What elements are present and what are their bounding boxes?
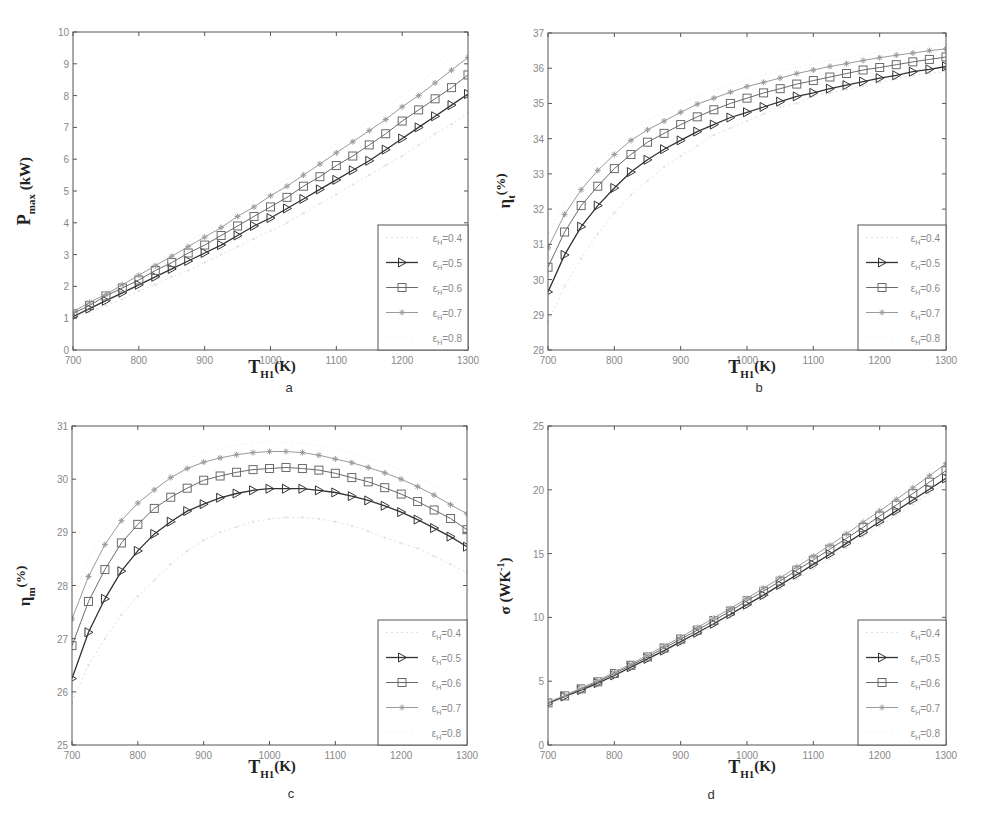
y-tick-label: 0: [538, 740, 544, 751]
x-tick-label: 900: [672, 750, 689, 761]
dot-marker: [812, 568, 814, 570]
y-tick-label: 29: [57, 527, 69, 538]
star-marker: [893, 52, 899, 58]
y-axis-label: σ (WK-1): [495, 558, 514, 615]
panel-label: c: [288, 786, 295, 801]
star-marker: [744, 84, 750, 90]
star-marker: [678, 109, 684, 115]
star-marker: [910, 485, 916, 491]
dot-marker: [597, 233, 599, 235]
star-marker: [431, 492, 437, 498]
star-marker: [844, 61, 850, 67]
star-marker: [416, 93, 422, 99]
chart-panel-c: 700800900100011001200130025262728293031ε…: [13, 421, 479, 801]
star-marker: [761, 585, 767, 591]
star-marker: [136, 272, 142, 278]
series-line: [72, 442, 467, 602]
y-tick-label: 5: [63, 186, 69, 197]
x-tick-label: 1200: [869, 750, 892, 761]
dot-marker: [912, 503, 914, 505]
dot-marker: [829, 558, 831, 560]
dot-marker: [235, 526, 237, 528]
x-tick-label: 1100: [803, 355, 825, 366]
dot-marker: [450, 123, 452, 125]
x-tick-label: 900: [196, 355, 213, 366]
dot-marker: [416, 547, 418, 549]
dot-marker: [796, 102, 798, 104]
y-tick-label: 26: [57, 687, 69, 698]
star-marker: [794, 71, 800, 77]
series-line: [548, 49, 946, 248]
star-marker: [448, 502, 454, 508]
dot-marker: [269, 230, 271, 232]
y-tick-label: 2: [63, 281, 69, 292]
y-tick-label: 29: [533, 310, 545, 321]
y-tick-label: 8: [63, 91, 69, 102]
y-tick-label: 5: [538, 676, 544, 687]
dot-marker: [663, 166, 665, 168]
star-marker: [168, 475, 174, 481]
dot-marker: [367, 530, 369, 532]
y-tick-label: 20: [533, 485, 545, 496]
star-marker: [860, 57, 866, 63]
star-marker: [202, 234, 208, 240]
x-tick-label: 1200: [390, 750, 413, 761]
star-marker: [283, 449, 289, 455]
star-marker: [250, 450, 256, 456]
dot-marker: [878, 525, 880, 527]
x-tick-label: 1100: [326, 355, 348, 366]
panel-label: a: [285, 380, 293, 395]
star-marker: [694, 625, 700, 631]
y-tick-label: 27: [57, 634, 69, 645]
dot-marker: [928, 492, 930, 494]
y-axis-label: ηm(%): [13, 566, 37, 607]
star-marker: [399, 310, 405, 316]
y-tick-label: 25: [533, 421, 545, 432]
star-marker: [217, 455, 223, 461]
chart-panel-a: 7008009001000110012001300012345678910εH=…: [14, 27, 480, 395]
dot-marker: [104, 637, 106, 639]
star-marker: [300, 172, 306, 178]
dot-marker: [401, 155, 403, 157]
x-tick-label: 1100: [803, 750, 825, 761]
dot-marker: [713, 134, 715, 136]
dot-marker: [384, 536, 386, 538]
star-marker: [152, 263, 158, 269]
star-marker: [184, 466, 190, 472]
star-marker: [794, 564, 800, 570]
x-tick-label: 700: [64, 750, 81, 761]
dot-marker: [845, 547, 847, 549]
star-marker: [562, 211, 568, 217]
star-marker: [284, 183, 290, 189]
dot-marker: [105, 304, 107, 306]
dot-marker: [613, 211, 615, 213]
x-tick-label: 900: [672, 355, 689, 366]
dot-marker: [679, 155, 681, 157]
star-marker: [879, 705, 885, 711]
y-tick-label: 33: [533, 169, 545, 180]
dot-marker: [796, 578, 798, 580]
panel-label: d: [707, 787, 714, 802]
star-marker: [268, 193, 274, 199]
dot-marker: [302, 212, 304, 214]
dot-marker: [219, 531, 221, 533]
dot-marker: [121, 298, 123, 300]
y-tick-label: 25: [57, 740, 69, 751]
x-tick-label: 800: [129, 750, 146, 761]
dot-marker: [170, 563, 172, 565]
star-marker: [777, 75, 783, 81]
star-marker: [810, 553, 816, 559]
star-marker: [844, 531, 850, 537]
star-marker: [349, 460, 355, 466]
star-marker: [119, 282, 125, 288]
star-marker: [661, 643, 667, 649]
star-marker: [382, 470, 388, 476]
star-marker: [201, 459, 207, 465]
dot-marker: [729, 127, 731, 129]
star-marker: [235, 213, 241, 219]
x-tick-label: 800: [606, 750, 623, 761]
y-tick-label: 34: [533, 134, 545, 145]
dot-marker: [138, 290, 140, 292]
dot-marker: [696, 145, 698, 147]
y-tick-label: 30: [57, 474, 69, 485]
